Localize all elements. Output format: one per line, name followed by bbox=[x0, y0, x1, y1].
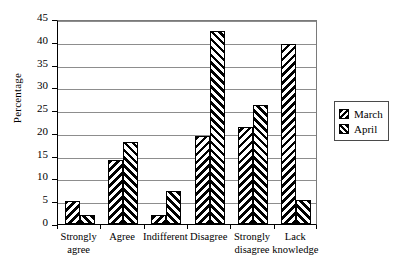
bar-group bbox=[151, 21, 181, 224]
x-tick-mark bbox=[316, 225, 317, 229]
bar bbox=[210, 31, 225, 224]
x-tick-mark bbox=[57, 225, 58, 229]
bar bbox=[123, 142, 138, 224]
bar-group bbox=[281, 21, 311, 224]
plot-area bbox=[57, 20, 317, 225]
legend-swatch-icon bbox=[339, 109, 349, 119]
y-tick-label: 35 bbox=[4, 58, 48, 69]
bar bbox=[281, 44, 296, 224]
x-tick-mark bbox=[230, 225, 231, 229]
y-tick-label: 0 bbox=[4, 217, 48, 228]
y-tick-label: 30 bbox=[4, 80, 48, 91]
x-axis-label: Lack knowledge bbox=[263, 230, 327, 256]
bar-group bbox=[108, 21, 138, 224]
y-axis-ticks: 051015202530354045 bbox=[0, 20, 57, 225]
bar bbox=[65, 201, 80, 224]
legend-item[interactable]: April bbox=[339, 121, 383, 136]
y-tick-label: 40 bbox=[4, 35, 48, 46]
x-tick-mark bbox=[100, 225, 101, 229]
bar-chart: Percentage 051015202530354045 Strongly a… bbox=[0, 0, 407, 280]
legend-swatch-icon bbox=[339, 124, 349, 134]
bar bbox=[166, 191, 181, 224]
bar bbox=[195, 136, 210, 224]
y-tick-label: 15 bbox=[4, 149, 48, 160]
bar-group bbox=[195, 21, 225, 224]
legend-label: April bbox=[354, 123, 377, 135]
y-tick-label: 5 bbox=[4, 194, 48, 205]
legend-item[interactable]: March bbox=[339, 106, 383, 121]
bar bbox=[151, 215, 166, 224]
x-tick-mark bbox=[274, 225, 275, 229]
y-tick-label: 10 bbox=[4, 171, 48, 182]
bar-group bbox=[65, 21, 95, 224]
bar bbox=[80, 215, 95, 224]
legend: MarchApril bbox=[334, 101, 389, 141]
legend-label: March bbox=[354, 108, 383, 120]
bar-group bbox=[238, 21, 268, 224]
x-axis-labels: Strongly agreeAgreeIndifferentDisagreeSt… bbox=[40, 230, 340, 278]
bar bbox=[108, 160, 123, 224]
x-tick-mark bbox=[144, 225, 145, 229]
bar bbox=[238, 127, 253, 224]
bars-layer bbox=[58, 21, 316, 224]
bar bbox=[253, 105, 268, 224]
bar bbox=[296, 200, 311, 224]
y-tick-label: 45 bbox=[4, 12, 48, 23]
y-tick-label: 25 bbox=[4, 103, 48, 114]
y-tick-label: 20 bbox=[4, 126, 48, 137]
x-tick-mark bbox=[187, 225, 188, 229]
